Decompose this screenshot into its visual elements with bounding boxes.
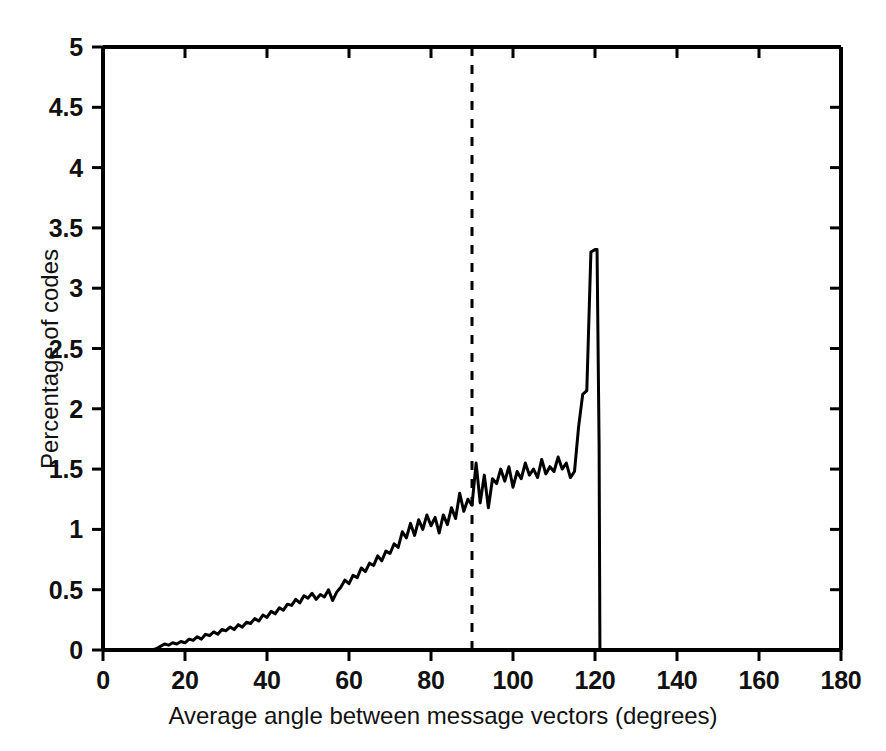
data-series-line <box>103 250 600 650</box>
x-tick-label: 160 <box>738 666 779 695</box>
x-tick-label: 180 <box>820 666 861 695</box>
x-tick-label: 60 <box>335 666 362 695</box>
x-tick-label: 20 <box>171 666 198 695</box>
x-tick-label: 0 <box>96 666 110 695</box>
axis-tick-marks <box>92 47 841 661</box>
x-tick-label: 80 <box>417 666 444 695</box>
chart-canvas <box>0 0 886 751</box>
x-tick-label: 120 <box>574 666 615 695</box>
x-tick-label: 100 <box>492 666 533 695</box>
y-axis-title: Percentage of codes <box>36 59 64 659</box>
figure-container: 00.511.522.533.544.55 020406080100120140… <box>0 0 886 751</box>
x-tick-label: 140 <box>656 666 697 695</box>
y-tick-label: 5 <box>0 33 83 62</box>
x-tick-label: 40 <box>253 666 280 695</box>
x-axis-title: Average angle between message vectors (d… <box>0 702 886 730</box>
